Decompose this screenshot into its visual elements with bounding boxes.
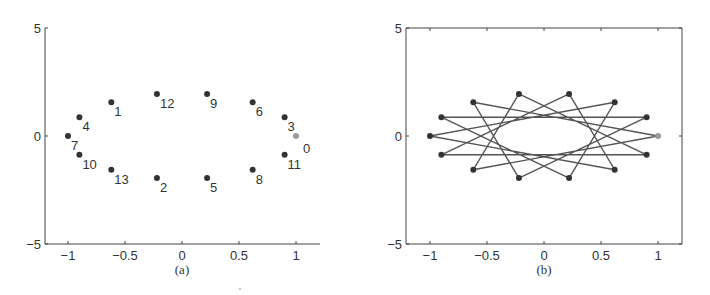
x-tick-label: 0.5: [230, 248, 248, 263]
panel-b-points: [427, 91, 661, 181]
data-point: [566, 91, 572, 97]
panel-b-axes: −1−0.500.5150−5: [387, 21, 682, 263]
data-point: [655, 133, 661, 139]
point-label: 0: [303, 141, 310, 156]
point-label: 11: [288, 157, 302, 172]
point-label: 1: [114, 104, 121, 119]
data-point: [612, 167, 618, 173]
data-point: [516, 175, 522, 181]
panel-b-star-polygon: −1−0.500.5150−5 (b): [387, 21, 682, 277]
y-tick-label: 0: [395, 129, 402, 144]
data-point: [644, 114, 650, 120]
x-tick-label: 0: [178, 248, 185, 263]
figure: −1−0.500.5150−5 012345678910111213 (a) −…: [0, 0, 710, 295]
data-point: [470, 99, 476, 105]
point-label: 12: [160, 96, 174, 111]
stray-dot: [239, 288, 241, 290]
point-label: 5: [210, 180, 217, 195]
point-label: 8: [256, 172, 263, 187]
panel-b-lines: [430, 94, 658, 178]
panel-a-points: 012345678910111213: [65, 91, 310, 195]
point-label: 7: [71, 138, 78, 153]
x-tick-label: 0: [540, 248, 547, 263]
panel-a-caption: (a): [175, 262, 189, 277]
data-point: [644, 152, 650, 158]
star-polygon-path: [430, 94, 658, 178]
x-tick-label: −0.5: [112, 248, 138, 263]
data-point: [516, 91, 522, 97]
data-point: [438, 114, 444, 120]
point-label: 4: [82, 119, 89, 134]
x-tick-label: 0.5: [592, 248, 610, 263]
point-label: 9: [210, 96, 217, 111]
data-point: [438, 152, 444, 158]
x-tick-label: −1: [61, 248, 76, 263]
x-tick-label: 1: [654, 248, 661, 263]
y-tick-label: 5: [34, 21, 41, 36]
data-point: [427, 133, 433, 139]
point-label: 3: [288, 119, 295, 134]
panel-a-scatter: −1−0.500.5150−5 012345678910111213 (a): [26, 21, 320, 290]
point-label: 10: [82, 157, 96, 172]
x-tick-label: −1: [423, 248, 438, 263]
x-tick-label: 1: [292, 248, 299, 263]
data-point: [566, 175, 572, 181]
panel-b-caption: (b): [536, 262, 551, 277]
y-tick-label: −5: [387, 237, 402, 252]
y-tick-label: 5: [395, 21, 402, 36]
point-label: 6: [256, 104, 263, 119]
data-point: [612, 99, 618, 105]
y-tick-label: −5: [26, 237, 41, 252]
data-point: [470, 167, 476, 173]
point-label: 13: [114, 172, 128, 187]
point-label: 2: [160, 180, 167, 195]
x-tick-label: −0.5: [474, 248, 500, 263]
y-tick-label: 0: [34, 129, 41, 144]
